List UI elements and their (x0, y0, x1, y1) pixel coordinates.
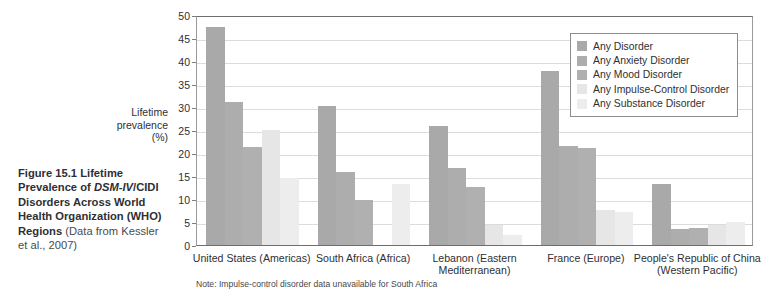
y-tick-label-45: 45 (168, 33, 190, 45)
y-tick-mark-35 (192, 85, 196, 86)
y-tick-mark-50 (192, 16, 196, 17)
y-tick-mark-45 (192, 39, 196, 40)
bar-group (197, 17, 308, 245)
y-tick-mark-20 (192, 154, 196, 155)
bar (615, 212, 634, 245)
x-tick-label-line: (Western Pacific) (617, 264, 770, 276)
y-tick-label-25: 25 (168, 125, 190, 137)
bar (206, 27, 225, 245)
legend-swatch (577, 99, 587, 109)
bar-group (308, 17, 419, 245)
y-axis-label-line-0: Lifetime (104, 106, 168, 119)
bar (262, 130, 281, 245)
legend-item: Any Mood Disorder (577, 68, 729, 82)
x-tick-label: People's Republic of China(Western Pacif… (617, 252, 770, 277)
y-tick-label-10: 10 (168, 194, 190, 206)
legend-label: Any Anxiety Disorder (593, 55, 689, 66)
y-tick-mark-5 (192, 223, 196, 224)
legend-swatch (577, 41, 587, 51)
bar (541, 71, 560, 245)
bar-group (420, 17, 531, 245)
y-tick-label-0: 0 (168, 240, 190, 252)
legend-item: Any Impulse-Control Disorder (577, 82, 729, 96)
legend-item: Any Disorder (577, 39, 729, 53)
y-tick-mark-25 (192, 131, 196, 132)
legend-label: Any Disorder (593, 41, 653, 52)
y-tick-label-20: 20 (168, 148, 190, 160)
legend-item: Any Anxiety Disorder (577, 53, 729, 67)
bar (559, 146, 578, 245)
legend-swatch (577, 56, 587, 66)
legend-label: Any Mood Disorder (593, 69, 682, 80)
bar (708, 225, 727, 245)
figure-caption: Figure 15.1 Lifetime Prevalence of DSM-I… (18, 166, 170, 252)
legend-label: Any Impulse-Control Disorder (593, 84, 729, 95)
legend-swatch (577, 84, 587, 94)
bar (503, 235, 522, 245)
y-tick-label-5: 5 (168, 217, 190, 229)
legend-label: Any Substance Disorder (593, 98, 705, 109)
bar (243, 147, 262, 245)
bar (652, 184, 671, 245)
y-axis-label-line-1: prevalence (104, 119, 168, 132)
y-tick-label-30: 30 (168, 102, 190, 114)
legend-swatch (577, 70, 587, 80)
bar (485, 225, 504, 245)
y-axis-label-line-2: (%) (104, 131, 168, 144)
y-tick-mark-40 (192, 62, 196, 63)
bar (466, 187, 485, 245)
y-tick-mark-15 (192, 177, 196, 178)
y-tick-mark-0 (192, 246, 196, 247)
bar (448, 168, 467, 245)
y-tick-mark-30 (192, 108, 196, 109)
bar (726, 222, 745, 245)
bar (578, 148, 597, 245)
chart-note: Note: Impulse-control disorder data unav… (196, 279, 437, 289)
chart-legend: Any DisorderAny Anxiety DisorderAny Mood… (570, 33, 738, 117)
bar (336, 172, 355, 245)
x-tick-label-line: Mediterranean) (395, 264, 555, 276)
y-axis-label: Lifetime prevalence (%) (104, 106, 168, 144)
bar (596, 210, 615, 245)
y-tick-mark-10 (192, 200, 196, 201)
bar (355, 200, 374, 245)
x-tick-label-line: People's Republic of China (617, 252, 770, 264)
bar (225, 102, 244, 245)
bar (671, 229, 690, 245)
bar (392, 184, 411, 245)
legend-item: Any Substance Disorder (577, 97, 729, 111)
figure-number: Figure 15.1 (18, 167, 77, 179)
figure-title-emphasis: DSM-IV (94, 181, 133, 193)
bar (318, 106, 337, 245)
y-tick-label-50: 50 (168, 10, 190, 22)
y-tick-label-40: 40 (168, 56, 190, 68)
bar (280, 178, 299, 245)
y-tick-label-35: 35 (168, 79, 190, 91)
y-tick-label-15: 15 (168, 171, 190, 183)
bar (429, 126, 448, 245)
bar (689, 228, 708, 245)
